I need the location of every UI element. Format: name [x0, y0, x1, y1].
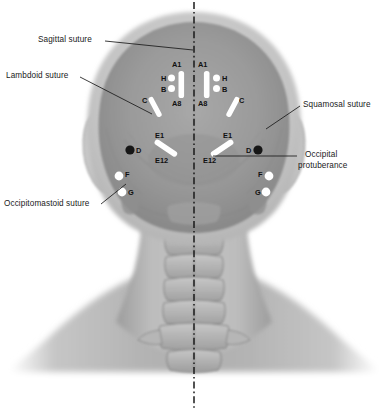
electrode-f-right — [265, 172, 274, 181]
electrode-bar-a-left — [179, 71, 185, 98]
label-occipitomastoid-suture: Occipitomastoid suture — [4, 199, 89, 208]
marker-label-c-left: C — [142, 96, 147, 105]
label-occipital-protuberance-line2: protuberance — [298, 161, 347, 170]
marker-label-c-right: C — [239, 96, 244, 105]
electrode-g-left — [118, 188, 127, 197]
marker-label-a8-right: A8 — [198, 99, 207, 108]
label-lambdoid-suture: Lambdoid suture — [6, 71, 69, 80]
marker-label-e1-left: E1 — [155, 131, 164, 140]
marker-label-e12-left: E12 — [155, 156, 168, 165]
marker-label-a1-right: A1 — [198, 60, 207, 69]
marker-label-b-right: B — [222, 85, 227, 94]
electrode-h-left — [168, 75, 175, 82]
electrode-bar-a-right — [204, 71, 210, 98]
marker-label-d-left: D — [136, 146, 141, 155]
electrode-f-left — [115, 172, 124, 181]
electrode-g-right — [262, 188, 271, 197]
electrode-d-right — [253, 145, 262, 154]
figure-canvas: Sagittal suture Lambdoid suture Occipito… — [0, 0, 388, 412]
marker-label-g-right: G — [255, 188, 261, 197]
electrode-d-left — [125, 145, 134, 154]
marker-label-g-left: G — [128, 188, 134, 197]
label-sagittal-suture: Sagittal suture — [38, 35, 92, 44]
electrode-b-left — [168, 85, 175, 92]
marker-label-b-left: B — [161, 85, 166, 94]
electrode-b-right — [213, 85, 220, 92]
marker-label-a1-left: A1 — [172, 60, 181, 69]
marker-label-f-right: F — [258, 170, 263, 179]
marker-label-h-left: H — [161, 74, 166, 83]
marker-label-h-right: H — [222, 74, 227, 83]
marker-label-e12-right: E12 — [203, 156, 216, 165]
label-squamosal-suture: Squamosal suture — [303, 100, 371, 109]
electrode-h-right — [213, 75, 220, 82]
label-occipital-protuberance: Occipital — [305, 150, 337, 159]
marker-label-e1-right: E1 — [223, 131, 232, 140]
marker-label-a8-left: A8 — [172, 99, 181, 108]
marker-label-d-right: D — [246, 146, 251, 155]
skull-cranium — [99, 22, 290, 233]
marker-label-f-left: F — [125, 170, 130, 179]
